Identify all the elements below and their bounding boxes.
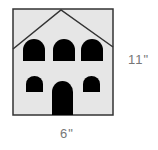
door [52,81,73,115]
upper-window-middle [53,39,75,61]
upper-window-left [23,39,45,61]
upper-window-right [81,39,103,61]
width-dimension-label: 6" [60,126,74,141]
lower-window-left [26,76,43,92]
house-diagram [0,0,158,150]
lower-window-right [83,76,100,92]
height-dimension-label: 11" [128,52,149,67]
